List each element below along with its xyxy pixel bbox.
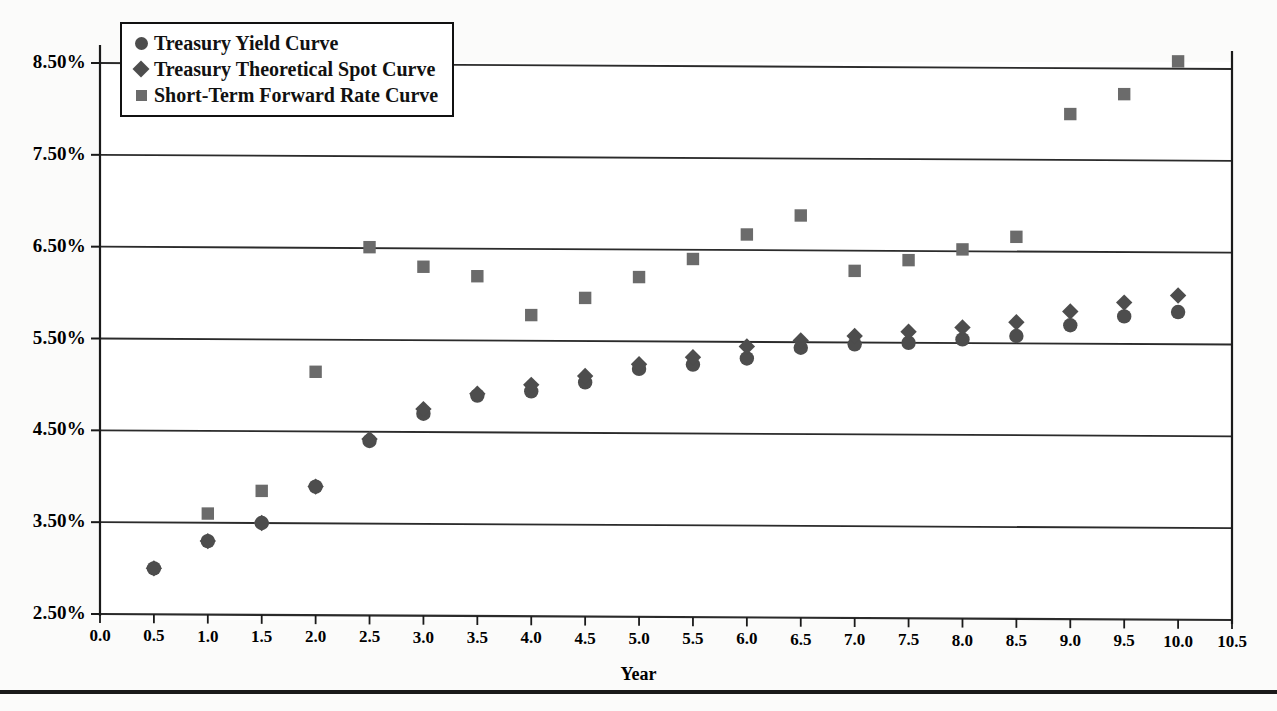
y-axis-tick-label: 4.50% (33, 418, 86, 440)
x-axis-tick-label: 1.5 (232, 627, 292, 647)
figure-bottom-rule (0, 690, 1277, 694)
legend-label: Treasury Yield Curve (152, 31, 338, 55)
x-axis-tick-label: 0.0 (70, 626, 130, 646)
x-axis-tick-label: 10.5 (1202, 632, 1262, 652)
x-axis-tick-label: 3.5 (447, 628, 507, 648)
x-axis-tick-label: 5.0 (609, 629, 669, 649)
legend-item-treasury-theoretical-spot-curve: Treasury Theoretical Spot Curve (130, 56, 438, 82)
x-axis-tick-label: 3.0 (393, 628, 453, 648)
y-axis-tick-label: 3.50% (33, 510, 86, 532)
x-axis-tick-label: 0.5 (124, 626, 184, 646)
x-axis-tick-label: 9.0 (1040, 631, 1100, 651)
chart-figure: Treasury Yield Curve Treasury Theoretica… (0, 0, 1277, 711)
circle-marker-icon (130, 37, 152, 50)
y-axis-tick-label: 5.50% (33, 327, 86, 349)
x-axis-tick-label: 7.0 (825, 630, 885, 650)
x-axis-tick-label: 2.0 (286, 627, 346, 647)
x-axis-tick-label: 9.5 (1094, 631, 1154, 651)
y-axis-tick-label: 7.50% (33, 143, 86, 165)
y-axis-tick-label: 6.50% (33, 235, 86, 257)
x-axis-tick-label: 6.0 (717, 629, 777, 649)
y-axis-tick-label: 2.50% (33, 602, 86, 624)
square-marker-icon (130, 90, 152, 101)
legend-item-short-term-forward-rate-curve: Short-Term Forward Rate Curve (130, 82, 438, 108)
legend-item-treasury-yield-curve: Treasury Yield Curve (130, 30, 438, 56)
x-axis-tick-label: 1.0 (178, 627, 238, 647)
y-axis-tick-label: 8.50% (33, 51, 86, 73)
x-axis-tick-label: 4.5 (555, 629, 615, 649)
x-axis-title: Year (0, 664, 1277, 685)
x-axis-tick-label: 10.0 (1148, 632, 1208, 652)
legend-label: Short-Term Forward Rate Curve (152, 83, 438, 107)
x-axis-tick-label: 8.5 (986, 631, 1046, 651)
legend-label: Treasury Theoretical Spot Curve (152, 57, 435, 81)
diamond-marker-icon (130, 63, 152, 75)
x-axis-tick-label: 8.0 (932, 631, 992, 651)
x-axis-tick-label: 4.0 (501, 628, 561, 648)
x-axis-tick-label: 6.5 (771, 630, 831, 650)
chart-legend: Treasury Yield Curve Treasury Theoretica… (120, 22, 454, 117)
x-axis-tick-label: 7.5 (879, 630, 939, 650)
x-axis-tick-label: 5.5 (663, 629, 723, 649)
x-axis-tick-label: 2.5 (340, 627, 400, 647)
